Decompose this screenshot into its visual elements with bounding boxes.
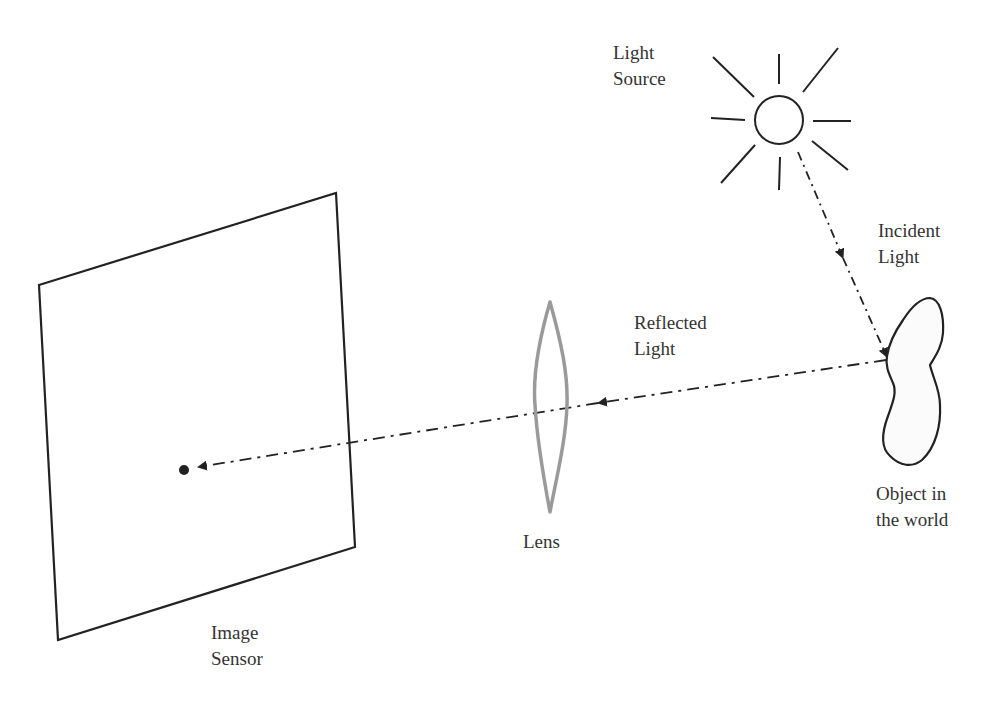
object-blob (883, 298, 943, 465)
reflected-light-ray (198, 360, 886, 467)
light-source-label: Light Source (613, 40, 666, 92)
image-sensor-label-line2: Sensor (211, 646, 263, 672)
reflected-light-label-line1: Reflected (634, 310, 707, 336)
sun-icon (711, 48, 851, 190)
reflected-light-label-line2: Light (634, 336, 707, 362)
image-sensor-label-line1: Image (211, 620, 263, 646)
incident-light-label-line1: Incident (878, 218, 940, 244)
object-label-line1: Object in (876, 481, 948, 507)
object-label: Object in the world (876, 481, 948, 533)
lens-label: Lens (523, 529, 560, 555)
lens-label-line1: Lens (523, 529, 560, 555)
light-source-label-line1: Light (613, 40, 666, 66)
object-label-line2: the world (876, 507, 948, 533)
incident-light-ray (798, 152, 887, 357)
lens-shape (534, 302, 567, 512)
image-sensor-plane (39, 193, 355, 640)
image-sensor-label: Image Sensor (211, 620, 263, 672)
incident-light-label-line2: Light (878, 244, 940, 270)
image-point-dot (179, 465, 189, 475)
incident-light-label: Incident Light (878, 218, 940, 270)
optics-diagram (0, 0, 999, 707)
light-source-label-line2: Source (613, 66, 666, 92)
reflected-light-label: Reflected Light (634, 310, 707, 362)
